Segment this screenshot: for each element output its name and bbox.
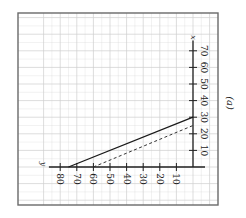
y-tick-label: 30 <box>138 173 148 185</box>
y-tick-label: 50 <box>105 173 115 185</box>
x-tick-label: 20 <box>199 128 209 140</box>
y-tick-label: 60 <box>88 173 98 185</box>
y-tick-label: 70 <box>72 173 82 185</box>
tick-labels: 102030405060701020304050607080xy <box>39 35 209 185</box>
panel-label: (a) <box>225 96 236 110</box>
x-tick-label: 10 <box>199 145 209 157</box>
x-tick-label: 40 <box>199 95 209 107</box>
x-tick-label: 60 <box>199 62 209 74</box>
y-tick-label: 80 <box>55 173 65 185</box>
rotated-line-chart: 102030405060701020304050607080xy (a) <box>0 0 246 218</box>
y-tick-label: 10 <box>171 173 181 185</box>
grid-lines <box>18 13 218 205</box>
y-tick-label: 20 <box>155 173 165 185</box>
y-tick-label: 40 <box>122 173 132 185</box>
axes <box>49 41 205 172</box>
y-axis-label: y <box>39 161 48 167</box>
x-tick-label: 30 <box>199 111 209 123</box>
x-tick-label: 70 <box>199 45 209 57</box>
chart-canvas: 102030405060701020304050607080xy (a) <box>0 0 246 218</box>
x-tick-label: 50 <box>199 78 209 90</box>
x-axis-label: x <box>189 35 198 40</box>
